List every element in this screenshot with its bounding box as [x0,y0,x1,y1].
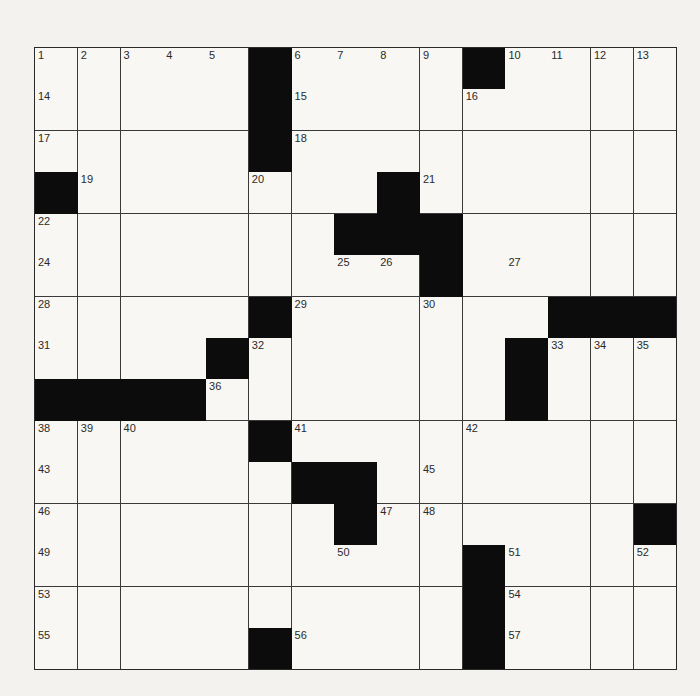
answer-cell[interactable]: 8 [377,48,420,90]
answer-cell[interactable]: 18 [292,131,335,173]
answer-cell[interactable]: 47 [377,504,420,546]
answer-cell[interactable]: 33 [548,338,591,380]
answer-cell[interactable] [163,587,206,629]
answer-cell[interactable]: 17 [35,131,78,173]
answer-cell[interactable] [505,214,548,256]
answer-cell[interactable] [463,172,506,214]
answer-cell[interactable]: 35 [634,338,677,380]
answer-cell[interactable] [463,462,506,504]
answer-cell[interactable] [463,255,506,297]
answer-cell[interactable]: 51 [505,545,548,587]
answer-cell[interactable] [78,214,121,256]
answer-cell[interactable] [591,504,634,546]
answer-cell[interactable]: 1 [35,48,78,90]
answer-cell[interactable] [78,338,121,380]
answer-cell[interactable] [377,379,420,421]
answer-cell[interactable] [163,214,206,256]
answer-cell[interactable]: 28 [35,297,78,339]
answer-cell[interactable] [377,297,420,339]
answer-cell[interactable]: 20 [249,172,292,214]
answer-cell[interactable] [377,462,420,504]
answer-cell[interactable] [463,297,506,339]
answer-cell[interactable] [505,131,548,173]
answer-cell[interactable] [505,421,548,463]
answer-cell[interactable]: 16 [463,89,506,131]
answer-cell[interactable] [292,545,335,587]
answer-cell[interactable] [505,462,548,504]
answer-cell[interactable] [249,504,292,546]
answer-cell[interactable] [334,628,377,669]
answer-cell[interactable]: 40 [121,421,164,463]
answer-cell[interactable]: 56 [292,628,335,669]
answer-cell[interactable]: 26 [377,255,420,297]
answer-cell[interactable] [206,214,249,256]
answer-cell[interactable] [420,89,463,131]
answer-cell[interactable] [206,131,249,173]
answer-cell[interactable] [548,255,591,297]
answer-cell[interactable] [121,628,164,669]
answer-cell[interactable] [163,462,206,504]
answer-cell[interactable]: 27 [505,255,548,297]
answer-cell[interactable]: 29 [292,297,335,339]
answer-cell[interactable] [78,255,121,297]
answer-cell[interactable] [634,587,677,629]
answer-cell[interactable] [548,421,591,463]
answer-cell[interactable] [78,628,121,669]
answer-cell[interactable] [634,172,677,214]
answer-cell[interactable] [292,172,335,214]
answer-cell[interactable] [377,338,420,380]
answer-cell[interactable]: 30 [420,297,463,339]
answer-cell[interactable] [121,587,164,629]
answer-cell[interactable] [334,338,377,380]
answer-cell[interactable] [334,297,377,339]
answer-cell[interactable] [206,545,249,587]
answer-cell[interactable] [121,214,164,256]
answer-cell[interactable] [78,89,121,131]
answer-cell[interactable]: 38 [35,421,78,463]
answer-cell[interactable]: 9 [420,48,463,90]
answer-cell[interactable] [206,255,249,297]
answer-cell[interactable] [206,462,249,504]
answer-cell[interactable] [121,545,164,587]
answer-cell[interactable]: 50 [334,545,377,587]
answer-cell[interactable] [334,379,377,421]
answer-cell[interactable] [548,545,591,587]
answer-cell[interactable] [420,421,463,463]
answer-cell[interactable] [634,255,677,297]
answer-cell[interactable] [249,255,292,297]
answer-cell[interactable] [463,214,506,256]
answer-cell[interactable]: 49 [35,545,78,587]
answer-cell[interactable] [463,379,506,421]
answer-cell[interactable] [334,172,377,214]
answer-cell[interactable] [591,255,634,297]
answer-cell[interactable] [292,379,335,421]
answer-cell[interactable] [420,131,463,173]
answer-cell[interactable] [548,379,591,421]
answer-cell[interactable] [163,628,206,669]
answer-cell[interactable] [591,89,634,131]
answer-cell[interactable]: 53 [35,587,78,629]
answer-cell[interactable]: 7 [334,48,377,90]
answer-cell[interactable] [420,587,463,629]
answer-cell[interactable] [249,214,292,256]
answer-cell[interactable] [121,297,164,339]
answer-cell[interactable] [121,172,164,214]
answer-cell[interactable] [548,214,591,256]
answer-cell[interactable] [505,172,548,214]
answer-cell[interactable] [249,462,292,504]
answer-cell[interactable] [591,421,634,463]
answer-cell[interactable] [292,214,335,256]
answer-cell[interactable] [334,421,377,463]
answer-cell[interactable] [634,379,677,421]
answer-cell[interactable] [634,628,677,669]
answer-cell[interactable] [548,89,591,131]
answer-cell[interactable] [292,587,335,629]
answer-cell[interactable]: 36 [206,379,249,421]
answer-cell[interactable] [163,504,206,546]
answer-cell[interactable]: 5 [206,48,249,90]
answer-cell[interactable]: 34 [591,338,634,380]
answer-cell[interactable] [249,587,292,629]
answer-cell[interactable] [420,338,463,380]
answer-cell[interactable]: 15 [292,89,335,131]
answer-cell[interactable]: 13 [634,48,677,90]
